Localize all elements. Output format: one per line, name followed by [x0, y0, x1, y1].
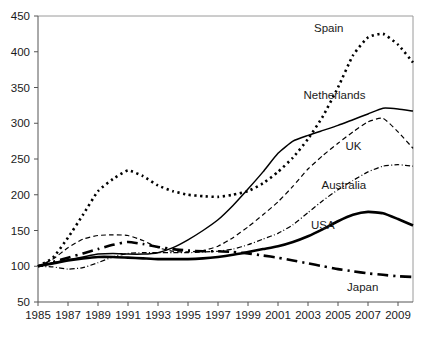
line-chart: 50100150200250300350400450 1985198719891… — [0, 0, 430, 338]
series-label-usa: USA — [311, 219, 335, 231]
series-label-japan: Japan — [347, 281, 378, 293]
x-tick-label: 1991 — [115, 309, 141, 321]
y-axis-labels: 50100150200250300350400450 — [11, 10, 30, 308]
x-tick-label: 2007 — [355, 309, 381, 321]
y-tick-label: 300 — [11, 117, 30, 129]
series-label-spain: Spain — [314, 22, 343, 34]
y-tick-label: 50 — [17, 296, 30, 308]
chart-container: 50100150200250300350400450 1985198719891… — [0, 0, 430, 338]
series-label-uk: UK — [346, 140, 362, 152]
x-tick-label: 1995 — [175, 309, 201, 321]
x-tick-label: 2005 — [325, 309, 351, 321]
y-tick-label: 250 — [11, 153, 30, 165]
x-tick-label: 1999 — [235, 309, 261, 321]
y-tick-label: 350 — [11, 82, 30, 94]
x-tick-label: 2009 — [385, 309, 411, 321]
x-tick-label: 1993 — [145, 309, 171, 321]
y-tick-label: 200 — [11, 189, 30, 201]
series-label-australia: Australia — [322, 179, 367, 191]
series-label-netherlands: Netherlands — [304, 89, 366, 101]
x-tick-label: 1987 — [55, 309, 81, 321]
x-tick-label: 1985 — [25, 309, 51, 321]
x-tick-label: 1989 — [85, 309, 111, 321]
y-tick-label: 450 — [11, 10, 30, 22]
x-tick-label: 2001 — [265, 309, 291, 321]
y-tick-label: 100 — [11, 260, 30, 272]
x-tick-label: 2003 — [295, 309, 321, 321]
y-tick-label: 400 — [11, 46, 30, 58]
x-tick-label: 1997 — [205, 309, 231, 321]
y-tick-label: 150 — [11, 225, 30, 237]
